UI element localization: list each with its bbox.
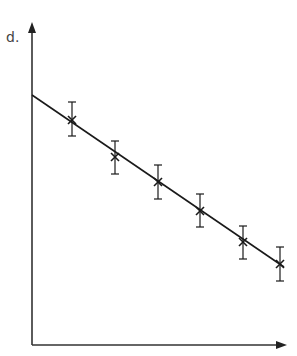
data-point [196, 194, 204, 227]
data-point [276, 247, 284, 281]
data-point [68, 102, 76, 136]
data-points [68, 102, 284, 281]
x-axis-arrow-icon [276, 341, 287, 349]
y-axis-arrow-icon [28, 22, 36, 33]
data-point [111, 141, 119, 174]
data-point [239, 226, 247, 259]
chart-plot [0, 0, 297, 356]
